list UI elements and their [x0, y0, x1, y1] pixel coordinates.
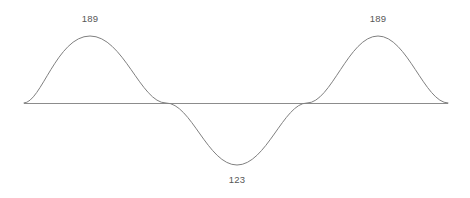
- wave-plot-area: [0, 0, 470, 198]
- sine-curve: [24, 36, 448, 165]
- peak-right-value-label: 189: [370, 13, 386, 24]
- peak-left-value-label: 189: [82, 13, 98, 24]
- sine-wave-chart: 189 189 123: [0, 0, 470, 198]
- trough-value-label: 123: [229, 174, 245, 185]
